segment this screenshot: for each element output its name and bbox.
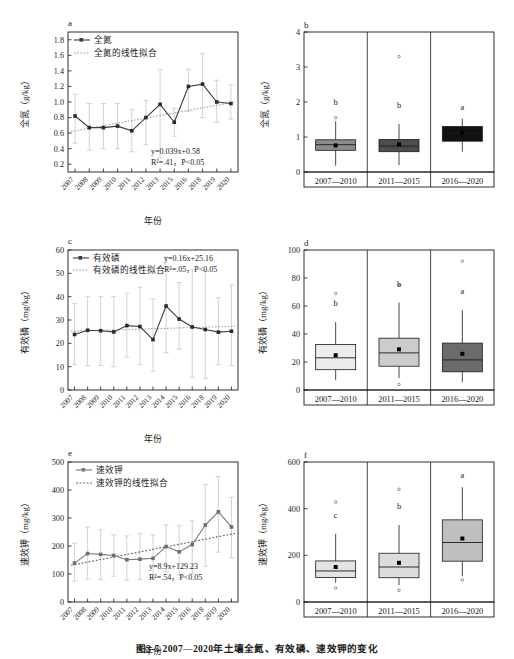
x-tick-label: 2020 bbox=[215, 393, 232, 410]
panel-e-svg: e 0100200300400500 200720082009201020112… bbox=[18, 444, 252, 659]
panel-e-fit-annotation: y=8.9x+129.23 R²=.54，P<0.05 bbox=[149, 562, 202, 582]
group-label: 2011—2015 bbox=[378, 607, 420, 616]
group-label: 2016—2020 bbox=[441, 607, 483, 616]
panel-c-y-axis: 0102030405060 bbox=[56, 246, 72, 395]
box-body bbox=[316, 561, 356, 578]
panel-a-svg: a 0.20.40.60.81.01.21.41.61.8 2007200820… bbox=[18, 14, 252, 230]
y-tick-label: 0 bbox=[296, 598, 300, 607]
panel-c-fit-annotation: y=0.16x+25.16 R²=.05，P<0.05 bbox=[164, 254, 217, 274]
data-point bbox=[112, 330, 116, 334]
panel-d-svg: d 020406080100 bba 2007—20102011—2015201… bbox=[258, 232, 508, 432]
panel-b-category-labels: 2007—20102011—20152016—2020 bbox=[315, 177, 484, 186]
panel-c-x-label: 年份 bbox=[144, 433, 162, 444]
y-tick-label: 20 bbox=[56, 339, 64, 348]
data-point bbox=[172, 120, 176, 124]
data-point bbox=[177, 550, 181, 554]
data-point bbox=[116, 124, 120, 128]
x-tick-label: 2009 bbox=[87, 175, 104, 192]
group-label: 2011—2015 bbox=[378, 177, 420, 186]
y-tick-label: 0.2 bbox=[54, 160, 64, 169]
data-point bbox=[125, 324, 129, 328]
panel-e-y-axis: 0100200300400500 bbox=[52, 458, 72, 607]
data-point bbox=[73, 333, 77, 337]
data-point bbox=[86, 328, 90, 332]
panel-c-legend-series: 有效磷 bbox=[93, 252, 120, 263]
group-label: 2007—2010 bbox=[315, 607, 357, 616]
panel-b: b 01234 bba 2007—20102011—20152016—2020 … bbox=[258, 14, 508, 214]
panel-e-r2: R²=.54，P<0.05 bbox=[149, 573, 202, 582]
mean-marker bbox=[397, 347, 401, 351]
y-tick-label: 4 bbox=[296, 28, 300, 37]
mean-marker bbox=[334, 353, 338, 357]
mean-marker bbox=[460, 131, 464, 135]
group-label: 2007—2010 bbox=[315, 177, 357, 186]
panel-b-svg: b 01234 bba 2007—20102011—20152016—2020 … bbox=[258, 14, 508, 214]
data-point bbox=[125, 558, 129, 562]
group-label: 2016—2020 bbox=[441, 177, 483, 186]
x-tick-label: 2018 bbox=[186, 175, 203, 192]
box-body bbox=[442, 343, 482, 372]
y-tick-label: 1 bbox=[296, 133, 300, 142]
data-point bbox=[151, 338, 155, 342]
x-tick-label: 2007 bbox=[59, 175, 76, 192]
panel-f-id: f bbox=[304, 450, 307, 460]
panel-c-id: c bbox=[68, 236, 72, 246]
x-tick-label: 2016 bbox=[172, 175, 189, 192]
outlier-point bbox=[461, 260, 464, 263]
outlier-point bbox=[398, 589, 401, 592]
panel-a-legend-series: 全氮 bbox=[94, 34, 112, 45]
significance-letter: b bbox=[334, 299, 338, 308]
data-point bbox=[87, 126, 91, 130]
panel-a-legend-fit: 全氮的线性拟合 bbox=[94, 47, 157, 58]
significance-letter: b bbox=[334, 98, 338, 107]
panel-a-x-label: 年份 bbox=[144, 215, 162, 226]
panel-c-svg: c 0102030405060 200720082009201020112012… bbox=[18, 232, 252, 448]
y-tick-label: 3 bbox=[296, 63, 300, 72]
y-tick-label: 600 bbox=[288, 458, 300, 467]
y-tick-label: 40 bbox=[56, 293, 64, 302]
panel-c-legend: 有效磷 有效磷的线性拟合 bbox=[73, 252, 165, 275]
data-point bbox=[217, 510, 221, 514]
panel-a-y-label: 全氮（g/kg） bbox=[19, 76, 30, 128]
outlier-point bbox=[461, 579, 464, 582]
data-point bbox=[217, 330, 221, 334]
data-point bbox=[73, 114, 77, 118]
x-tick-label: 2008 bbox=[73, 175, 90, 192]
panel-d: d 020406080100 bba 2007—20102011—2015201… bbox=[258, 232, 508, 432]
outlier-point bbox=[334, 587, 337, 590]
significance-letter: a bbox=[460, 287, 464, 296]
outlier-point bbox=[334, 501, 337, 504]
panel-f-y-label: 速效钾（mg/kg） bbox=[257, 498, 268, 566]
outlier-point bbox=[398, 488, 401, 491]
panel-a-error-bars bbox=[72, 54, 233, 158]
mean-marker bbox=[460, 537, 464, 541]
significance-letter: c bbox=[334, 511, 338, 520]
data-point bbox=[190, 543, 194, 547]
panel-c-equation: y=0.16x+25.16 bbox=[164, 254, 213, 263]
panel-f: f 0200400600 cba 2007—20102011—20152016—… bbox=[258, 444, 508, 644]
panel-d-y-label: 有效磷（mg/kg） bbox=[257, 286, 268, 354]
data-point bbox=[164, 545, 168, 549]
y-tick-label: 0.4 bbox=[54, 145, 64, 154]
data-point bbox=[138, 325, 142, 329]
significance-letter: b bbox=[397, 502, 401, 511]
data-point bbox=[99, 553, 103, 557]
x-tick-label: 2015 bbox=[158, 175, 175, 192]
y-tick-label: 10 bbox=[56, 363, 64, 372]
group-label: 2016—2020 bbox=[441, 395, 483, 404]
panel-c: c 0102030405060 200720082009201020112012… bbox=[18, 232, 252, 448]
y-tick-label: 1.0 bbox=[54, 98, 64, 107]
panel-d-id: d bbox=[304, 238, 309, 248]
panel-d-y-axis: 020406080100 bbox=[288, 246, 308, 395]
data-point bbox=[187, 85, 191, 89]
panel-e-equation: y=8.9x+129.23 bbox=[149, 562, 198, 571]
group-label: 2011—2015 bbox=[378, 395, 420, 404]
y-tick-label: 30 bbox=[56, 316, 64, 325]
figure-caption: 图3-5 2007—2020年土壤全氮、有效磷、速效钾的变化 bbox=[0, 641, 514, 655]
y-tick-label: 1.6 bbox=[54, 51, 64, 60]
mean-marker bbox=[334, 565, 338, 569]
data-point bbox=[73, 561, 77, 565]
data-point bbox=[99, 329, 103, 333]
y-tick-label: 1.2 bbox=[54, 82, 64, 91]
significance-letter: b bbox=[397, 280, 401, 289]
